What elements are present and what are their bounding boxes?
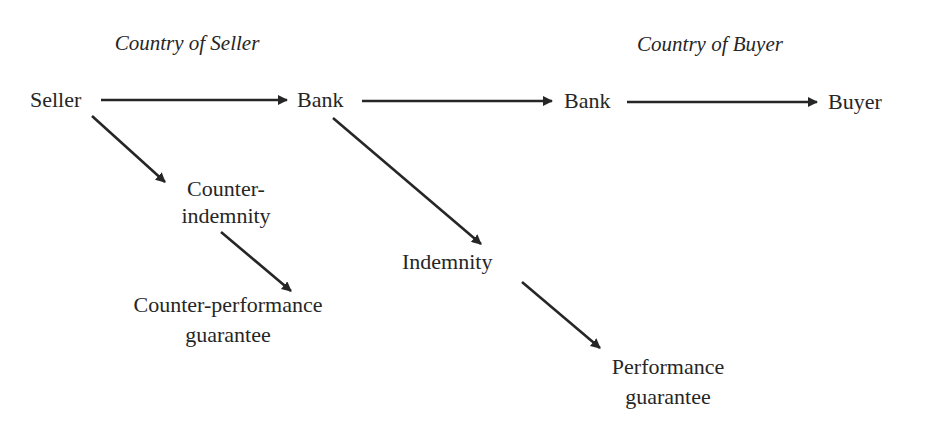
node-counter-indemnity-line-1: Counter- xyxy=(181,175,270,202)
heading-country-of-buyer: Country of Buyer xyxy=(637,31,783,57)
arrow-seller-to-counter-indemnity xyxy=(92,116,165,182)
node-indemnity: Indemnity xyxy=(402,249,492,275)
node-counter-indemnity: Counter- indemnity xyxy=(181,175,270,229)
node-counter-performance-guarantee-line-1: Counter-performance xyxy=(134,290,323,320)
guarantee-flow-diagram: Country of Seller Country of Buyer Selle… xyxy=(0,0,932,423)
node-seller: Seller xyxy=(30,87,81,113)
node-seller-bank: Bank xyxy=(297,87,343,113)
node-counter-indemnity-line-2: indemnity xyxy=(181,202,270,229)
node-buyer: Buyer xyxy=(828,89,882,115)
arrow-indemnity-to-performance-guarantee xyxy=(522,282,600,348)
node-performance-guarantee-line-2: guarantee xyxy=(612,382,724,412)
node-counter-performance-guarantee: Counter-performance guarantee xyxy=(134,290,323,350)
node-performance-guarantee-line-1: Performance xyxy=(612,352,724,382)
node-counter-performance-guarantee-line-2: guarantee xyxy=(134,320,323,350)
arrows-layer xyxy=(0,0,932,423)
arrow-counter-indemnity-to-counter-performance-guarantee xyxy=(221,232,291,291)
node-performance-guarantee: Performance guarantee xyxy=(612,352,724,412)
arrow-bank-to-indemnity xyxy=(333,118,481,244)
heading-country-of-seller: Country of Seller xyxy=(115,30,260,56)
node-buyer-bank: Bank xyxy=(564,88,610,114)
